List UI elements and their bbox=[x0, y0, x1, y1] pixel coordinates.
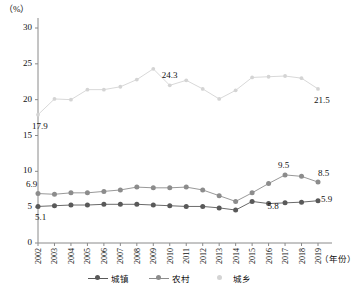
y-axis-tick-5: 5 bbox=[10, 201, 32, 211]
data-point bbox=[184, 78, 188, 82]
data-point bbox=[299, 174, 304, 179]
data-point bbox=[134, 202, 139, 207]
y-axis-tick-25: 25 bbox=[10, 58, 32, 68]
data-point bbox=[102, 88, 106, 92]
data-point bbox=[53, 97, 57, 101]
data-point bbox=[167, 185, 172, 190]
data-point bbox=[266, 181, 271, 186]
data-point bbox=[217, 97, 221, 101]
x-axis-tick-2018: 2018 bbox=[298, 248, 307, 264]
data-point bbox=[69, 98, 73, 102]
legend-item-农村[interactable]: 农村 bbox=[149, 272, 190, 284]
data-label-农村-2017: 9.5 bbox=[278, 160, 289, 170]
legend-marker-dot-icon bbox=[217, 275, 222, 280]
legend-swatch-icon bbox=[149, 274, 169, 282]
data-point bbox=[167, 203, 172, 208]
data-label-城镇-2016: 5.8 bbox=[268, 201, 279, 211]
data-point bbox=[283, 74, 287, 78]
data-point bbox=[168, 83, 172, 87]
x-axis-name-label: （年份） bbox=[320, 252, 355, 264]
x-axis-tick-2011: 2011 bbox=[182, 248, 191, 264]
data-point bbox=[52, 203, 57, 208]
legend-item-城镇[interactable]: 城镇 bbox=[88, 272, 129, 284]
data-point bbox=[283, 172, 288, 177]
x-axis-tick-2006: 2006 bbox=[100, 248, 109, 264]
data-label-农村-2019: 8.5 bbox=[318, 168, 329, 178]
data-label-城乡-2002: 17.9 bbox=[32, 121, 48, 131]
data-point bbox=[233, 199, 238, 204]
x-axis-tick-2005: 2005 bbox=[83, 248, 92, 264]
data-point bbox=[118, 187, 123, 192]
data-point bbox=[200, 204, 205, 209]
data-point bbox=[134, 185, 139, 190]
data-label-城乡-2019: 21.5 bbox=[314, 95, 330, 105]
data-point bbox=[316, 180, 321, 185]
data-point bbox=[233, 208, 238, 213]
data-point bbox=[234, 88, 238, 92]
chart-axes bbox=[35, 18, 332, 246]
data-point bbox=[250, 199, 255, 204]
data-point bbox=[36, 113, 40, 117]
data-point bbox=[200, 187, 205, 192]
x-axis-tick-2002: 2002 bbox=[34, 248, 43, 264]
legend-swatch-icon bbox=[88, 274, 108, 282]
y-axis-tick-10: 10 bbox=[10, 165, 32, 175]
data-point bbox=[135, 78, 139, 82]
legend-label: 城乡 bbox=[233, 272, 251, 284]
data-point bbox=[299, 200, 304, 205]
data-point bbox=[217, 193, 222, 198]
series-城乡 bbox=[36, 67, 320, 117]
x-axis-tick-2015: 2015 bbox=[248, 248, 257, 264]
data-point bbox=[85, 190, 90, 195]
data-point bbox=[68, 190, 73, 195]
data-point bbox=[36, 191, 41, 196]
data-point bbox=[151, 67, 155, 71]
y-axis-tick-15: 15 bbox=[10, 130, 32, 140]
data-label-城镇-2019: 5.9 bbox=[321, 194, 332, 204]
legend-marker-dot-icon bbox=[95, 275, 100, 280]
data-point bbox=[151, 203, 156, 208]
data-point bbox=[118, 85, 122, 89]
series-line-农村 bbox=[38, 175, 318, 202]
legend-item-城乡[interactable]: 城乡 bbox=[210, 272, 251, 284]
y-axis-tick-0: 0 bbox=[10, 237, 32, 247]
x-axis-tick-2008: 2008 bbox=[133, 248, 142, 264]
legend-swatch-icon bbox=[210, 274, 230, 282]
data-point bbox=[86, 88, 90, 92]
x-axis-tick-2013: 2013 bbox=[215, 248, 224, 264]
x-axis-tick-2004: 2004 bbox=[67, 248, 76, 264]
data-point bbox=[184, 204, 189, 209]
data-point bbox=[85, 203, 90, 208]
x-axis-tick-2007: 2007 bbox=[116, 248, 125, 264]
y-axis-tick-30: 30 bbox=[10, 22, 32, 32]
data-point bbox=[300, 76, 304, 80]
chart-legend: 城镇农村城乡 bbox=[0, 272, 339, 284]
data-point bbox=[68, 203, 73, 208]
data-label-农村-2002: 6.9 bbox=[26, 179, 37, 189]
x-axis-tick-2014: 2014 bbox=[232, 248, 241, 264]
data-point bbox=[151, 185, 156, 190]
legend-marker-dot-icon bbox=[156, 275, 161, 280]
x-axis-tick-2010: 2010 bbox=[166, 248, 175, 264]
data-point bbox=[118, 202, 123, 207]
data-point bbox=[267, 75, 271, 79]
legend-label: 城镇 bbox=[111, 272, 129, 284]
data-point bbox=[250, 76, 254, 80]
data-label-城镇-2002: 5.1 bbox=[35, 212, 46, 222]
x-axis-tick-2009: 2009 bbox=[149, 248, 158, 264]
data-point bbox=[316, 87, 320, 91]
data-point bbox=[201, 87, 205, 91]
legend-label: 农村 bbox=[172, 272, 190, 284]
x-axis-tick-2012: 2012 bbox=[199, 248, 208, 264]
data-point bbox=[101, 189, 106, 194]
series-line-城乡 bbox=[38, 69, 318, 115]
data-point bbox=[283, 200, 288, 205]
y-axis-tick-20: 20 bbox=[10, 94, 32, 104]
data-point bbox=[250, 190, 255, 195]
data-point bbox=[101, 202, 106, 207]
series-农村 bbox=[36, 172, 321, 204]
x-axis-tick-2016: 2016 bbox=[265, 248, 274, 264]
data-point bbox=[36, 204, 41, 209]
data-point bbox=[217, 205, 222, 210]
data-point bbox=[52, 192, 57, 197]
